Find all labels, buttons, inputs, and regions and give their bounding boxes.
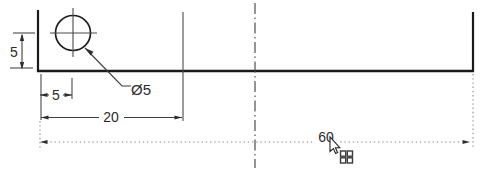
arrowhead-h5-right (65, 93, 73, 97)
hole[interactable] (50, 8, 97, 57)
extension-lines (10, 12, 183, 121)
dimension-20[interactable]: 20 (41, 108, 182, 125)
arrowhead-leader (85, 48, 94, 55)
dim-label-intermediate[interactable]: 20 (103, 109, 119, 125)
arrowhead-60-right (463, 140, 471, 144)
leader-diameter[interactable]: Ø5 (85, 48, 151, 98)
dim-label-hole-diameter[interactable]: Ø5 (131, 81, 151, 98)
dimension-h5[interactable]: 5 (40, 87, 72, 103)
dimension-v5[interactable]: 5 (7, 34, 24, 70)
arrowhead-v5-up (20, 34, 24, 42)
arrowhead-60-left (40, 140, 48, 144)
cad-drawing-canvas[interactable]: 5 5 20 Ø5 60 (0, 0, 483, 178)
cursor (330, 137, 353, 163)
arrowhead-20-left (41, 115, 49, 119)
dim-label-hole-offset-bottom[interactable]: 5 (10, 44, 18, 60)
grid-snap-icon (341, 151, 353, 163)
dim-label-hole-offset-left[interactable]: 5 (52, 87, 60, 103)
arrowhead-20-right (175, 115, 183, 119)
